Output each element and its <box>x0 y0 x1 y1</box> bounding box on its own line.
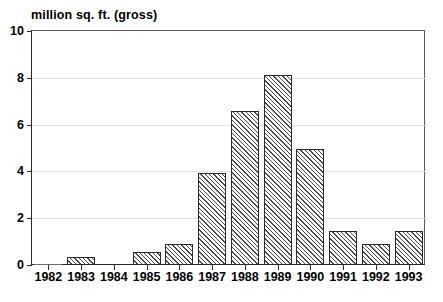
bar <box>296 149 324 265</box>
bar <box>165 244 193 265</box>
y-axis-tick <box>27 171 32 172</box>
bar <box>395 231 423 265</box>
y-axis-tick <box>27 218 32 219</box>
x-axis-tick-label: 1990 <box>296 270 324 284</box>
x-axis-tick-label: 1985 <box>133 270 161 284</box>
x-axis-tick-label: 1984 <box>100 270 128 284</box>
x-axis-tick-label: 1986 <box>165 270 193 284</box>
x-axis-tick-label: 1989 <box>264 270 292 284</box>
y-axis-tick <box>27 125 32 126</box>
x-axis-tick-label: 1987 <box>198 270 226 284</box>
x-axis-tick-label: 1993 <box>395 270 423 284</box>
plot-area: 0246810 <box>32 31 425 265</box>
x-axis-tick-label: 1992 <box>362 270 390 284</box>
gridline-y <box>32 78 425 79</box>
bar <box>133 252 161 265</box>
gridline-y <box>32 218 425 219</box>
bar <box>264 75 292 265</box>
y-axis-tick <box>27 31 32 32</box>
chart-axis-title: million sq. ft. (gross) <box>31 8 157 22</box>
x-axis-tick-label: 1983 <box>67 270 95 284</box>
y-axis-tick <box>27 265 32 266</box>
gridline-y <box>32 171 425 172</box>
bar <box>362 244 390 265</box>
bar <box>67 257 95 265</box>
bar <box>198 173 226 265</box>
bar-chart: million sq. ft. (gross) 0246810 19821983… <box>0 0 443 302</box>
bar <box>329 231 357 265</box>
y-axis-tick-label: 0 <box>17 258 24 272</box>
x-axis-tick-label: 1991 <box>329 270 357 284</box>
y-axis-tick-label: 4 <box>17 164 24 178</box>
gridline-y <box>32 125 425 126</box>
x-axis-tick-label: 1988 <box>231 270 259 284</box>
y-axis-tick-label: 10 <box>10 24 24 38</box>
x-axis-tick-label: 1982 <box>34 270 62 284</box>
y-axis-tick-label: 8 <box>17 71 24 85</box>
y-axis-tick-label: 2 <box>17 211 24 225</box>
y-axis-tick <box>27 78 32 79</box>
y-axis-tick-label: 6 <box>17 118 24 132</box>
bar <box>231 111 259 265</box>
